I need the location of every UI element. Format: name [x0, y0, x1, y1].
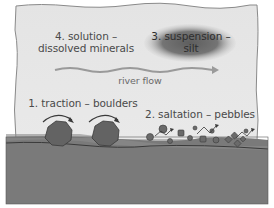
label-solution: 4. solution – dissolved minerals — [36, 30, 136, 54]
label-saltation: 2. saltation – pebbles — [144, 108, 256, 120]
label-solution-line1: 4. solution – — [36, 30, 136, 42]
label-river-flow: river flow — [110, 75, 170, 87]
river-transport-diagram: 4. solution – dissolved minerals 3. susp… — [0, 0, 274, 208]
label-suspension: 3. suspension – silt — [148, 30, 234, 54]
label-suspension-line2: silt — [148, 42, 234, 54]
riverbed — [6, 134, 268, 204]
label-solution-line2: dissolved minerals — [36, 42, 136, 54]
label-suspension-line1: 3. suspension – — [148, 30, 234, 42]
label-traction: 1. traction – boulders — [24, 97, 142, 109]
